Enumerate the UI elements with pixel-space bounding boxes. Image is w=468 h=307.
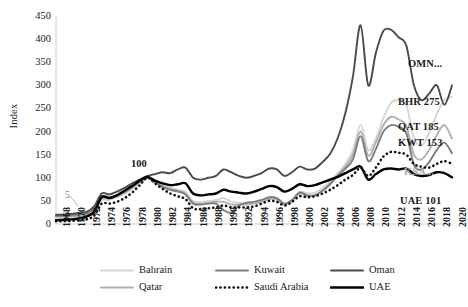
x-axis-tick-label: 2018 — [441, 207, 452, 227]
x-axis-tick-label: 1996 — [274, 207, 285, 227]
legend-label: UAE — [369, 281, 391, 293]
x-axis-tick-label: 2006 — [350, 207, 361, 227]
series-end-label-bahrain: BHR 275 — [398, 96, 440, 107]
legend-swatch-icon — [330, 283, 364, 292]
legend-row: QatarSaudi ArabiaUAE — [0, 281, 464, 298]
legend-swatch-icon — [100, 266, 134, 275]
x-axis-tick-label: 2002 — [319, 207, 330, 227]
legend-row: BahrainKuwaitOman — [0, 264, 464, 281]
legend-label: Saudi Arabia — [254, 281, 309, 293]
x-axis-tick-label: 2014 — [411, 207, 422, 227]
x-axis-tick-label: 1976 — [121, 207, 132, 227]
legend-swatch-icon — [215, 266, 249, 275]
x-axis-tick-label: 2016 — [426, 207, 437, 227]
legend-label: Qatar — [139, 281, 162, 293]
base-year-annotation: 100 — [131, 158, 147, 169]
x-axis-tick-label: 2020 — [457, 207, 468, 227]
x-axis-tick-label: 1982 — [167, 207, 178, 227]
legend-item-oman[interactable]: Oman — [330, 264, 395, 276]
legend: BahrainKuwaitOmanQatarSaudi ArabiaUAE — [0, 264, 464, 307]
x-axis-tick-label: 1980 — [152, 207, 163, 227]
x-axis-tick-label: 1998 — [289, 207, 300, 227]
series-end-label-oman: OMN... — [408, 58, 442, 69]
legend-item-qatar[interactable]: Qatar — [100, 281, 162, 293]
x-axis-tick-label: 2012 — [396, 207, 407, 227]
series-end-label-uae: UAE 101 — [400, 195, 441, 206]
x-axis-tick-label: 1988 — [213, 207, 224, 227]
x-axis-tick-label: 1974 — [106, 207, 117, 227]
x-axis-tick-label: 2008 — [365, 207, 376, 227]
legend-item-saudi-arabia[interactable]: Saudi Arabia — [215, 281, 309, 293]
legend-label: Oman — [369, 264, 395, 276]
x-axis-tick-label: 1978 — [137, 207, 148, 227]
legend-label: Bahrain — [139, 264, 172, 276]
value-5-annotation: 5 — [65, 190, 70, 200]
legend-label: Kuwait — [254, 264, 285, 276]
legend-item-uae[interactable]: UAE — [330, 281, 391, 293]
legend-item-bahrain[interactable]: Bahrain — [100, 264, 172, 276]
x-axis-tick-label: 2000 — [304, 207, 315, 227]
x-axis-tick-label: 1984 — [182, 207, 193, 227]
x-axis-tick-label: 1992 — [243, 207, 254, 227]
series-end-label-kuwait: KWT 153 — [398, 137, 443, 148]
legend-swatch-icon — [330, 266, 364, 275]
series-end-label-saudi-arabia: KSA... — [404, 166, 434, 177]
x-axis-tick-label: 1972 — [91, 207, 102, 227]
legend-item-kuwait[interactable]: Kuwait — [215, 264, 285, 276]
x-axis-tick-label: 2010 — [380, 207, 391, 227]
legend-swatch-icon — [215, 283, 249, 292]
x-axis-tick-label: 1986 — [198, 207, 209, 227]
legend-swatch-icon — [100, 283, 134, 292]
x-axis-tick-label: 1994 — [259, 207, 270, 227]
x-axis-tick-label: 2004 — [335, 207, 346, 227]
x-axis-tick-label: 1990 — [228, 207, 239, 227]
x-axis-tick-label: 1970 — [76, 207, 87, 227]
x-axis-tick-label: 1968 — [61, 207, 72, 227]
series-end-label-qatar: QAT 185 — [398, 121, 439, 132]
